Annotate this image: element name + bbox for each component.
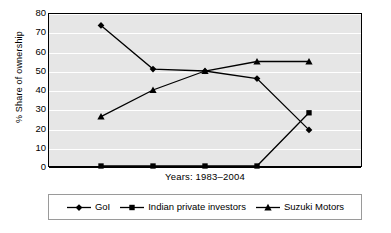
series-line — [101, 113, 309, 166]
square-marker-icon — [254, 163, 259, 168]
y-tick-label: 30 — [18, 104, 46, 113]
y-tick-label: 20 — [18, 124, 46, 133]
series-layer — [49, 14, 361, 166]
legend-item-suzuki-motors[interactable]: Suzuki Motors — [255, 202, 344, 213]
triangle-marker-icon — [97, 113, 104, 120]
y-tick-label: 80 — [18, 8, 46, 17]
chart-legend: GoIIndian private investorsSuzuki Motors — [48, 194, 362, 220]
square-marker-icon — [130, 204, 135, 209]
square-marker-icon — [150, 163, 155, 168]
diamond-marker-icon — [66, 202, 92, 213]
y-tick-label: 40 — [18, 85, 46, 94]
y-tick-label: 60 — [18, 47, 46, 56]
legend-label: Suzuki Motors — [284, 202, 344, 212]
y-tick-label: 0 — [18, 162, 46, 171]
series-goi — [98, 22, 313, 133]
y-tick-label: 50 — [18, 66, 46, 75]
y-axis-tick-labels: 80706050403020100 — [18, 0, 46, 233]
series-line — [101, 25, 309, 130]
plot-area — [48, 13, 362, 167]
triangle-marker-icon — [255, 202, 281, 213]
y-tick-label: 10 — [18, 143, 46, 152]
x-axis-title: Years: 1983–2004 — [48, 171, 362, 182]
square-marker-icon — [119, 202, 145, 213]
series-indian-private-investors — [98, 110, 311, 169]
series-suzuki-motors — [97, 58, 312, 120]
square-marker-icon — [202, 163, 207, 168]
square-marker-icon — [306, 110, 311, 115]
legend-label: Indian private investors — [148, 202, 246, 212]
legend-item-goi[interactable]: GoI — [66, 202, 110, 213]
legend-item-indian-private-investors[interactable]: Indian private investors — [119, 202, 246, 213]
y-tick-label: 70 — [18, 27, 46, 36]
legend-label: GoI — [95, 202, 110, 212]
line-chart: % Share of ownership 80706050403020100 Y… — [0, 0, 391, 233]
square-marker-icon — [98, 163, 103, 168]
diamond-marker-icon — [76, 204, 83, 211]
